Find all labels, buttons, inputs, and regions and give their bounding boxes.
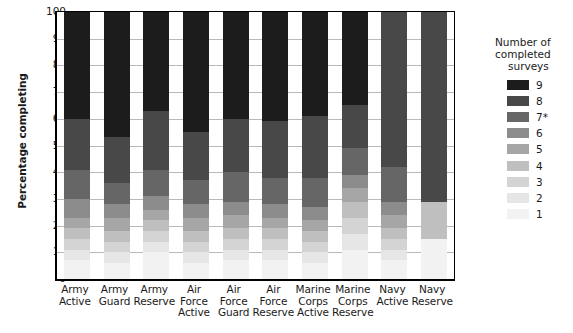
- legend: Number of completed surveys 987*654321: [495, 36, 573, 222]
- legend-row-3[interactable]: 3: [495, 174, 573, 190]
- bar-segment-8: [183, 132, 209, 180]
- legend-label-5: 5: [536, 144, 543, 154]
- bar-marine-corps-reserve[interactable]: [342, 12, 368, 279]
- bar-segment-2: [223, 250, 249, 261]
- bar-air-force-active[interactable]: [183, 12, 209, 279]
- legend-row-7star[interactable]: 7*: [495, 109, 573, 125]
- bar-segment-2: [183, 252, 209, 263]
- bar-segment-1: [104, 263, 130, 279]
- bar-segment-5: [302, 220, 328, 231]
- legend-swatch-3: [507, 177, 529, 187]
- bar-segment-8: [64, 119, 90, 170]
- bar-segment-9: [342, 12, 368, 105]
- bar-segment-3: [143, 231, 169, 242]
- bar-segment-1: [302, 263, 328, 279]
- bar-navy-active[interactable]: [381, 12, 407, 279]
- bar-segment-5: [104, 218, 130, 231]
- legend-row-2[interactable]: 2: [495, 190, 573, 206]
- bar-segment-4: [342, 202, 368, 218]
- legend-swatch-5: [507, 144, 529, 154]
- bar-segment-2: [302, 252, 328, 263]
- bar-segment-5: [183, 218, 209, 231]
- bar-segment-5: [262, 218, 288, 229]
- bar-segment-9: [302, 12, 328, 116]
- legend-swatch-9: [507, 80, 529, 90]
- bar-segment-6: [262, 204, 288, 217]
- legend-row-9[interactable]: 9: [495, 77, 573, 93]
- bar-segment-7star: [183, 180, 209, 204]
- bar-segment-6: [342, 175, 368, 188]
- bar-segment-6: [381, 202, 407, 215]
- bar-segment-3: [223, 239, 249, 250]
- bar-army-active[interactable]: [64, 12, 90, 279]
- bar-segment-8: [262, 121, 288, 177]
- bar-segment-2: [342, 234, 368, 250]
- bar-segment-7star: [104, 183, 130, 204]
- bar-segment-7star: [381, 167, 407, 202]
- bar-segment-8: [223, 119, 249, 172]
- x-label-navy-reserve: NavyReserve: [402, 284, 462, 307]
- bar-segment-4: [183, 231, 209, 242]
- bar-air-force-reserve[interactable]: [262, 12, 288, 279]
- bar-segment-4: [381, 228, 407, 239]
- legend-label-7star: 7*: [536, 112, 548, 122]
- x-label-line: Reserve: [323, 307, 383, 319]
- bar-segment-9: [262, 12, 288, 121]
- bar-segment-1: [342, 250, 368, 279]
- legend-row-5[interactable]: 5: [495, 141, 573, 157]
- legend-label-2: 2: [536, 193, 543, 203]
- bar-army-guard[interactable]: [104, 12, 130, 279]
- bar-segment-6: [104, 204, 130, 217]
- bar-segment-8: [342, 105, 368, 148]
- bar-segment-1: [64, 260, 90, 279]
- legend-row-1[interactable]: 1: [495, 206, 573, 222]
- bar-segment-5: [223, 215, 249, 228]
- bar-segment-9: [104, 12, 130, 137]
- bar-segment-9: [64, 12, 90, 119]
- bar-air-force-guard[interactable]: [223, 12, 249, 279]
- bar-segment-2: [262, 250, 288, 261]
- stacked-bar-chart: Percentage completing 010203040506070809…: [0, 0, 573, 333]
- bar-segment-7star: [223, 172, 249, 201]
- bars-layer: [57, 12, 454, 279]
- bar-segment-7star: [64, 170, 90, 199]
- bar-segment-3: [104, 242, 130, 253]
- bar-segment-7star: [302, 178, 328, 207]
- legend-swatch-1: [507, 209, 529, 219]
- bar-segment-8: [421, 12, 447, 202]
- bar-marine-corps-active[interactable]: [302, 12, 328, 279]
- bar-segment-4: [421, 202, 447, 239]
- bar-segment-3: [342, 218, 368, 234]
- bar-navy-reserve[interactable]: [421, 12, 447, 279]
- bar-segment-1: [143, 252, 169, 279]
- bar-segment-9: [143, 12, 169, 111]
- bar-segment-4: [64, 228, 90, 239]
- legend-swatch-8: [507, 96, 529, 106]
- bar-segment-7star: [342, 148, 368, 175]
- legend-row-4[interactable]: 4: [495, 158, 573, 174]
- bar-segment-8: [381, 12, 407, 167]
- bar-segment-9: [183, 12, 209, 132]
- bar-segment-5: [342, 188, 368, 201]
- bar-segment-9: [223, 12, 249, 119]
- legend-title-line-3: surveys: [495, 60, 573, 72]
- legend-row-8[interactable]: 8: [495, 93, 573, 109]
- legend-label-8: 8: [536, 96, 543, 106]
- bar-segment-7star: [143, 170, 169, 197]
- bar-army-reserve[interactable]: [143, 12, 169, 279]
- x-label-line: Reserve: [402, 296, 462, 308]
- bar-segment-3: [183, 242, 209, 253]
- bar-segment-1: [421, 239, 447, 279]
- legend-row-6[interactable]: 6: [495, 125, 573, 141]
- legend-title-line-2: completed: [495, 48, 573, 60]
- bar-segment-5: [143, 210, 169, 221]
- legend-swatch-6: [507, 128, 529, 138]
- bar-segment-1: [183, 263, 209, 279]
- bar-segment-5: [381, 215, 407, 228]
- bar-segment-4: [104, 231, 130, 242]
- legend-label-1: 1: [536, 209, 543, 219]
- bar-segment-7star: [262, 178, 288, 205]
- legend-label-3: 3: [536, 177, 543, 187]
- bar-segment-8: [143, 111, 169, 170]
- bar-segment-3: [262, 239, 288, 250]
